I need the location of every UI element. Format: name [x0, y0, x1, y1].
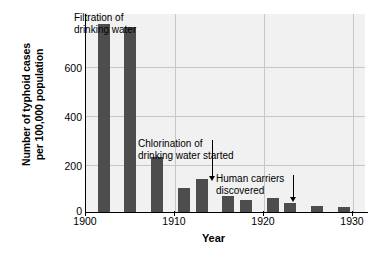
bar-1913	[196, 179, 208, 212]
bar-1921	[267, 198, 279, 212]
bar-1918	[240, 200, 252, 212]
gridline-x-1910	[175, 14, 176, 212]
annotation-human-carriers-line-2: discovered	[216, 185, 284, 197]
bar-1908	[151, 157, 163, 212]
x-tick-label-1930: 1930	[330, 215, 372, 227]
x-axis-title: Year	[0, 232, 372, 244]
annotation-chlorination: Chlorination of drinking water started	[138, 138, 234, 161]
annotation-human-carriers: Human carriers discovered	[216, 173, 284, 196]
y-tick-label-600: 600	[58, 63, 82, 73]
y-axis-title-line-2: per 100,000 population	[32, 20, 45, 190]
typhoid-cases-bar-chart: Number of typhoid cases per 100,000 popu…	[0, 0, 372, 255]
bar-1916	[222, 196, 234, 212]
annotation-chlorination-line-1: Chlorination of	[138, 138, 234, 150]
annotation-filtration-line-2: drinking water	[74, 24, 136, 36]
x-tick-label-1920: 1920	[241, 215, 285, 227]
bar-1902	[98, 24, 110, 212]
y-tick-label-200: 200	[58, 161, 82, 171]
annotation-human-carriers-line-1: Human carriers	[216, 173, 284, 185]
annotation-arrow-human-carriers	[293, 175, 294, 197]
x-axis-line	[85, 212, 368, 213]
annotation-chlorination-line-2: drinking water started	[138, 150, 234, 162]
annotation-filtration-line-1: Filtration of	[74, 12, 136, 24]
x-tick-label-1910: 1910	[152, 215, 196, 227]
bar-1905	[124, 27, 136, 212]
y-axis-title-line-1: Number of typhoid cases	[20, 20, 33, 190]
annotation-filtration: Filtration of drinking water	[74, 12, 136, 35]
y-tick-label-400: 400	[58, 112, 82, 122]
bar-1911	[178, 188, 190, 212]
y-axis-title: Number of typhoid cases per 100,000 popu…	[20, 20, 45, 190]
gridline-x-1930	[353, 14, 354, 212]
x-tick-label-1900: 1900	[63, 215, 107, 227]
